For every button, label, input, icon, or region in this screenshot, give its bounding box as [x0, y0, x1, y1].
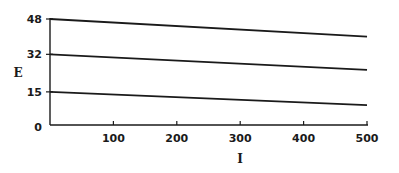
y-tick-label: 15 — [27, 86, 42, 99]
y-axis-label: E — [13, 66, 22, 80]
y-tick-label: 0 — [34, 121, 42, 134]
series-line-32 — [50, 54, 367, 69]
series-lines — [50, 19, 367, 105]
line-chart: 1002003004005000153248 I E — [0, 0, 399, 173]
x-tick-label: 100 — [102, 132, 125, 145]
x-axis-label: I — [237, 152, 243, 166]
x-tick-label: 400 — [292, 132, 315, 145]
y-tick-label: 48 — [27, 13, 42, 26]
y-tick-label: 32 — [27, 48, 42, 61]
series-line-48 — [50, 19, 367, 37]
x-tick-label: 500 — [356, 132, 379, 145]
x-tick-label: 300 — [229, 132, 252, 145]
x-tick-label: 200 — [165, 132, 188, 145]
series-line-15 — [50, 92, 367, 105]
